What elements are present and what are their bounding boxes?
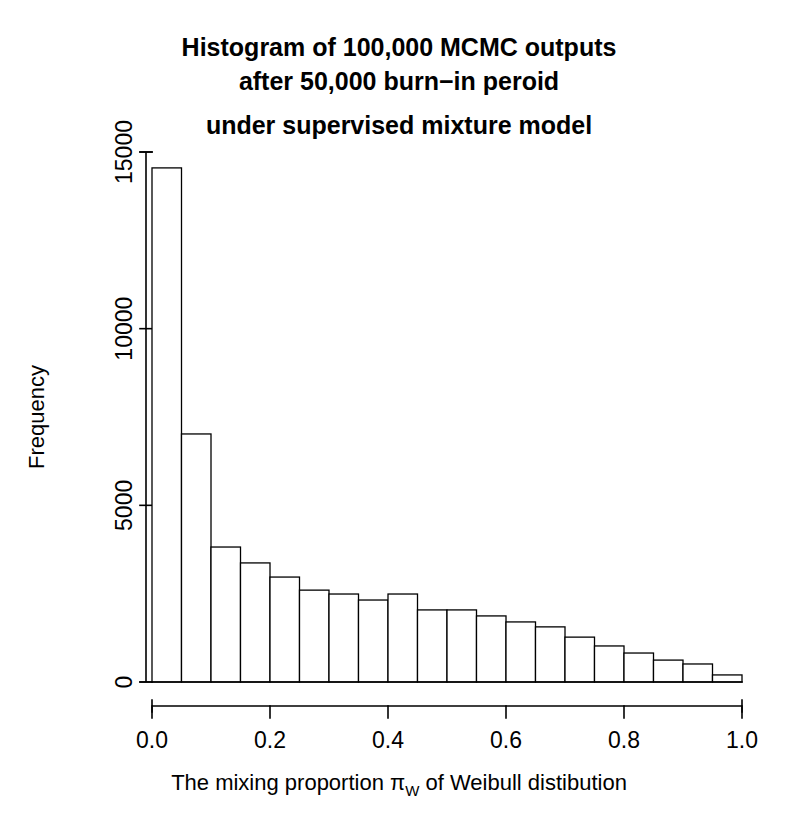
histogram-bar [536,627,566,682]
x-axis-ticks [152,706,742,718]
histogram-bar [447,610,477,682]
y-tick-label: 0 [111,676,137,689]
histogram-plot: Histogram of 100,000 MCMC outputs after … [0,0,799,835]
histogram-bar [477,616,507,682]
x-tick-label: 0.4 [372,727,404,753]
histogram-bar [506,622,536,682]
chart-title-line-3: under supervised mixture model [206,111,592,139]
histogram-bar [565,637,595,682]
x-tick-label: 1.0 [726,727,758,753]
x-tick-label: 0.0 [136,727,168,753]
y-tick-label: 10000 [111,297,137,361]
x-axis-title: The mixing proportion πW of Weibull dist… [171,770,627,799]
histogram-bar [595,646,625,682]
y-tick-label: 5000 [111,480,137,531]
histogram-bars [152,168,742,682]
x-tick-label: 0.8 [608,727,640,753]
histogram-bar [241,563,271,682]
pi-symbol: π [390,770,405,795]
x-tick-label: 0.6 [490,727,522,753]
histogram-figure: Histogram of 100,000 MCMC outputs after … [0,0,799,835]
x-axis-tick-labels: 0.00.20.40.60.81.0 [136,727,758,753]
histogram-bar [683,664,713,682]
x-axis-title-after: of Weibull distibution [419,770,627,795]
histogram-bar [211,547,241,682]
chart-title-line-1: Histogram of 100,000 MCMC outputs [182,33,617,61]
histogram-bar [270,577,300,682]
histogram-bar [300,590,330,682]
histogram-bar [388,594,418,682]
histogram-bar [654,660,684,682]
pi-subscript: W [405,782,420,799]
histogram-bar [624,653,654,682]
histogram-bar [418,610,448,682]
histogram-bar [359,600,389,682]
y-axis-title: Frequency [24,365,49,469]
chart-title: Histogram of 100,000 MCMC outputs after … [182,33,617,139]
x-tick-label: 0.2 [254,727,286,753]
y-axis-line [140,152,152,682]
y-axis-tick-labels: 050001000015000 [111,120,137,688]
histogram-bar [182,434,212,682]
y-tick-label: 15000 [111,120,137,184]
x-axis-title-before: The mixing proportion [171,770,390,795]
histogram-bar [329,594,359,682]
chart-title-line-2: after 50,000 burn−in peroid [239,67,559,95]
x-axis-line [152,700,742,712]
histogram-bar [713,675,743,682]
histogram-bar [152,168,182,682]
